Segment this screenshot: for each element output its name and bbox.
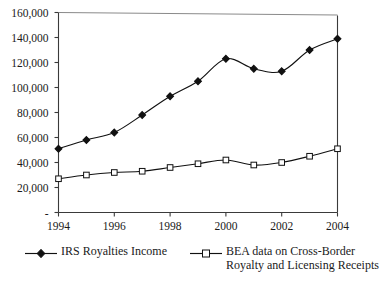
x-tick-label: 2000 <box>214 220 237 232</box>
data-point-marker-square <box>167 165 173 171</box>
axis-tick-marks <box>55 13 338 217</box>
x-tick-label: 1996 <box>103 220 126 232</box>
legend-label-irs: IRS Royalties Income <box>61 244 167 258</box>
x-axis-tick-labels: 199419961998200020022004 <box>47 220 349 232</box>
y-tick-label: 80,000 <box>17 107 49 120</box>
series-markers-irs <box>55 35 341 152</box>
series-markers-bea <box>56 146 341 182</box>
y-axis-tick-labels: -20,00040,00060,00080,000100,000120,0001… <box>11 7 49 219</box>
legend-item-bea: BEA data on Cross-Border Royalty and Lic… <box>189 244 379 272</box>
data-point-marker-diamond <box>139 112 146 119</box>
legend-label-irs-line1: IRS Royalties Income <box>61 244 167 258</box>
y-tick-label: 60,000 <box>17 132 49 145</box>
data-point-marker-square <box>112 170 118 176</box>
chart-svg: -20,00040,00060,00080,000100,000120,0001… <box>0 0 381 240</box>
data-point-marker-diamond <box>278 68 285 75</box>
chart-legend: IRS Royalties Income BEA data on Cross-B… <box>0 240 381 291</box>
data-point-marker-diamond <box>334 35 341 42</box>
data-point-marker-diamond <box>111 129 118 136</box>
y-tick-label: 120,000 <box>11 57 49 70</box>
data-point-marker-square <box>307 153 313 159</box>
x-tick-label: 1998 <box>159 220 182 232</box>
data-point-marker-diamond <box>83 137 90 144</box>
data-point-marker-diamond <box>306 47 313 54</box>
y-tick-label: 140,000 <box>11 32 49 45</box>
y-tick-label: 160,000 <box>11 7 49 20</box>
data-point-marker-diamond <box>250 65 257 72</box>
data-point-marker-diamond <box>55 145 62 152</box>
x-tick-label: 2004 <box>326 220 349 232</box>
legend-label-bea: BEA data on Cross-Border Royalty and Lic… <box>226 244 379 272</box>
series-line-irs <box>59 39 338 149</box>
x-tick-label: 1994 <box>47 220 70 232</box>
y-tick-label: 20,000 <box>17 182 49 195</box>
legend-marker-filled-diamond-icon <box>24 246 58 261</box>
data-point-marker-square <box>56 176 62 182</box>
data-point-marker-diamond <box>167 93 174 100</box>
y-tick-label: 40,000 <box>17 157 49 170</box>
data-point-marker-square <box>279 160 285 166</box>
legend-item-irs: IRS Royalties Income <box>24 244 167 261</box>
x-tick-label: 2002 <box>270 220 293 232</box>
legend-marker-open-square-icon <box>189 246 223 261</box>
y-tick-label: 100,000 <box>11 82 49 95</box>
data-point-marker-square <box>251 162 257 168</box>
data-point-marker-square <box>223 157 229 163</box>
data-point-marker-square <box>84 172 90 178</box>
y-tick-label: - <box>45 207 49 219</box>
legend-label-bea-line1: BEA data on Cross-Border <box>226 244 355 258</box>
data-point-marker-square <box>335 146 341 152</box>
data-point-marker-square <box>139 168 145 174</box>
plot-frame-top <box>59 13 338 16</box>
royalties-line-chart: -20,00040,00060,00080,000100,000120,0001… <box>0 0 381 291</box>
plot-area: -20,00040,00060,00080,000100,000120,0001… <box>0 0 381 240</box>
data-point-marker-diamond <box>223 55 230 62</box>
legend-label-bea-line2: Royalty and Licensing Receipts <box>226 258 379 272</box>
data-point-marker-square <box>195 161 201 167</box>
